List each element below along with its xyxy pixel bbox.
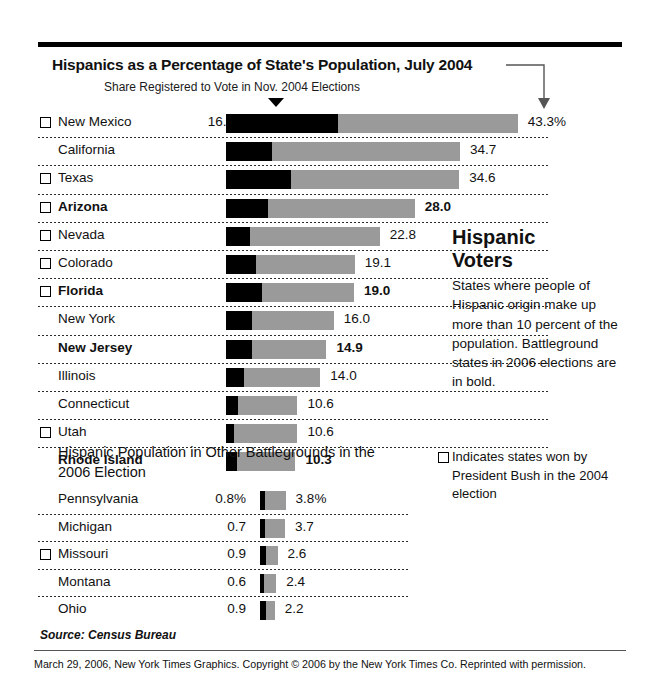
population-bar: [265, 519, 285, 538]
bush-state-checkbox-icon: [40, 230, 51, 241]
population-percent-value: 14.0: [330, 368, 356, 383]
bush-state-checkbox-icon: [40, 258, 51, 269]
bar-group: [226, 340, 326, 359]
population-percent-value: 3.8%: [296, 491, 327, 506]
state-label: Colorado: [58, 255, 113, 270]
bar-group: [260, 574, 276, 593]
population-percent-value: 22.8: [390, 227, 416, 242]
state-label: Missouri: [58, 546, 108, 561]
population-bar: [234, 424, 297, 443]
population-percent-value: 19.1: [365, 255, 391, 270]
population-percent-value: 2.6: [288, 546, 307, 561]
registered-share-bar: [260, 546, 266, 565]
population-bar: [266, 546, 277, 565]
state-label: Arizona: [58, 199, 108, 214]
population-bar: [291, 170, 460, 189]
registered-share-bar: [226, 255, 256, 274]
bar-group: [226, 311, 334, 330]
registered-share-bar: [226, 340, 252, 359]
registered-share-bar: [260, 601, 266, 620]
bush-state-checkbox-icon: [40, 173, 51, 184]
state-label: Nevada: [58, 227, 105, 242]
chart-subtitle: Share Registered to Vote in Nov. 2004 El…: [104, 80, 360, 94]
table-row: Ohio0.92.2: [38, 597, 388, 625]
population-bar: [256, 255, 355, 274]
state-label: New Mexico: [58, 114, 132, 129]
registered-share-bar: [260, 574, 264, 593]
registered-share-bar: [226, 283, 262, 302]
page-title: Hispanics as a Percentage of State's Pop…: [52, 56, 472, 74]
registered-share-bar: [260, 519, 265, 538]
table-row: New Mexico16.6%43.3%: [38, 110, 538, 138]
bush-state-checkbox-icon: [40, 427, 51, 438]
state-label: Pennsylvania: [58, 491, 138, 506]
registered-share-bar: [260, 491, 265, 510]
state-label: Utah: [58, 424, 87, 439]
table-row: Arizona6.228.0: [38, 195, 538, 223]
registered-share-value: 0.7: [190, 519, 246, 534]
bar-group: [226, 142, 460, 161]
state-label: Connecticut: [58, 396, 129, 411]
table-row: Missouri0.92.6: [38, 542, 388, 570]
side-panel-heading-line1: Hispanic: [452, 226, 535, 248]
population-bar: [244, 368, 320, 387]
bar-group: [260, 546, 278, 565]
state-label: Ohio: [58, 601, 87, 616]
side-panel-body: States where people of Hispanic origin m…: [452, 276, 622, 392]
side-panel-heading: Hispanic Voters: [452, 226, 535, 272]
bar-group: [226, 396, 297, 415]
table-row: Michigan0.73.7: [38, 515, 388, 543]
table-row: Connecticut1.810.6: [38, 392, 538, 420]
registered-share-pointer-icon: [268, 98, 284, 107]
registered-share-bar: [226, 311, 252, 330]
population-bar: [265, 491, 285, 510]
population-percent-value: 14.9: [336, 340, 362, 355]
state-label: California: [58, 142, 115, 157]
nyt-hispanic-voters-graphic: Hispanics as a Percentage of State's Pop…: [0, 0, 648, 682]
bar-group: [260, 491, 286, 510]
credit-line: March 29, 2006, New York Times Graphics.…: [34, 658, 634, 670]
registered-share-bar: [226, 424, 234, 443]
table-row: Montana0.62.4: [38, 570, 388, 598]
bar-group: [260, 601, 275, 620]
bar-group: [226, 170, 459, 189]
population-percent-value: 19.0: [364, 283, 390, 298]
secondary-bar-list: Pennsylvania0.8%3.8%Michigan0.73.7Missou…: [38, 487, 388, 625]
registered-share-bar: [226, 368, 244, 387]
registered-share-value: 0.9: [190, 601, 246, 616]
population-percent-value: 16.0: [344, 311, 370, 326]
population-percent-value: 34.6: [469, 170, 495, 185]
table-row: California6.834.7: [38, 138, 538, 166]
registered-share-bar: [226, 199, 268, 218]
population-percent-value: 2.4: [286, 574, 305, 589]
callout-leader-arrow: [506, 62, 552, 110]
population-bar: [262, 283, 354, 302]
state-label: Florida: [58, 283, 103, 298]
legend-bush-states: Indicates states won by President Bush i…: [452, 448, 632, 504]
state-label: New York: [58, 311, 115, 326]
registered-share-bar: [226, 396, 238, 415]
bottom-rule: [34, 650, 626, 651]
population-bar: [264, 574, 276, 593]
bush-state-checkbox-icon: [438, 452, 449, 463]
registered-share-bar: [226, 227, 250, 246]
bush-state-checkbox-icon: [40, 117, 51, 128]
state-label: Michigan: [58, 519, 112, 534]
secondary-table-heading: Hispanic Population in Other Battlegroun…: [58, 442, 388, 482]
population-percent-value: 28.0: [425, 199, 451, 214]
population-bar: [268, 199, 415, 218]
bar-group: [226, 424, 297, 443]
bush-state-checkbox-icon: [40, 286, 51, 297]
registered-share-bar: [226, 142, 272, 161]
population-percent-value: 3.7: [295, 519, 314, 534]
registered-share-bar: [226, 170, 291, 189]
population-bar: [252, 340, 327, 359]
bar-group: [226, 255, 355, 274]
population-percent-value: 2.2: [285, 601, 304, 616]
population-bar: [266, 601, 275, 620]
top-rule: [38, 42, 622, 47]
population-percent-value: 10.6: [307, 396, 333, 411]
bush-state-checkbox-icon: [40, 549, 51, 560]
population-bar: [250, 227, 379, 246]
registered-share-value: 0.8%: [190, 491, 246, 506]
